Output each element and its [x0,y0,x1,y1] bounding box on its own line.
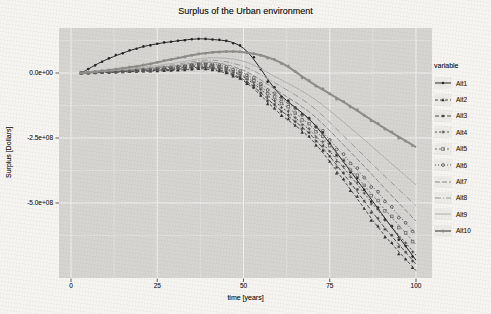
y-tick-label: -5.0e+08 [0,199,53,207]
legend-label: Alt3 [456,112,467,119]
y-axis-title: Surplus [Dollars] [5,112,12,192]
legend-key-Alt7 [434,176,452,188]
plot-area [0,0,491,314]
legend-item-Alt6: Alt6 [434,157,490,173]
legend-label: Alt10 [456,227,471,234]
legend-label: Alt4 [456,129,467,136]
legend-item-Alt8: Alt8 [434,190,490,206]
legend-items: Alt1Alt2Alt3Alt4Alt5Alt6Alt7Alt8Alt9Alt1… [434,75,490,239]
chart-title: Surplus of the Urban environment [59,6,432,16]
legend-item-Alt10: Alt10 [434,223,490,239]
legend-key-Alt6 [434,159,452,171]
legend-item-Alt5: Alt5 [434,141,490,157]
panel-background [59,28,432,278]
legend-key-Alt5 [434,143,452,155]
legend-item-Alt2: Alt2 [434,91,490,107]
legend-label: Alt1 [456,80,467,87]
legend-item-Alt9: Alt9 [434,206,490,222]
legend-item-Alt7: Alt7 [434,173,490,189]
legend-title: variable [434,62,490,69]
x-tick-label: 75 [326,282,333,290]
y-tick-label: 0.0e+00 [0,69,53,77]
legend-key-Alt3 [434,110,452,122]
legend-item-Alt4: Alt4 [434,124,490,140]
legend-key-Alt8 [434,192,452,204]
legend-label: Alt7 [456,178,467,185]
legend-label: Alt9 [456,211,467,218]
legend-item-Alt3: Alt3 [434,108,490,124]
legend-key-Alt10 [434,225,452,237]
x-tick-label: 0 [69,282,73,290]
legend-key-Alt2 [434,94,452,106]
x-tick-label: 25 [154,282,161,290]
legend-label: Alt6 [456,162,467,169]
legend-key-Alt1 [434,77,452,89]
legend-label: Alt5 [456,145,467,152]
x-tick-label: 50 [240,282,247,290]
legend-key-Alt9 [434,208,452,220]
x-tick-label: 100 [411,282,422,290]
legend-key-Alt4 [434,126,452,138]
legend-label: Alt2 [456,96,467,103]
x-axis-title: time [years] [59,294,432,301]
legend-item-Alt1: Alt1 [434,75,490,91]
legend-label: Alt8 [456,194,467,201]
legend: variable Alt1Alt2Alt3Alt4Alt5Alt6Alt7Alt… [434,62,490,239]
chart-figure: Surplus of the Urban environment 0.0e+00… [0,0,491,314]
